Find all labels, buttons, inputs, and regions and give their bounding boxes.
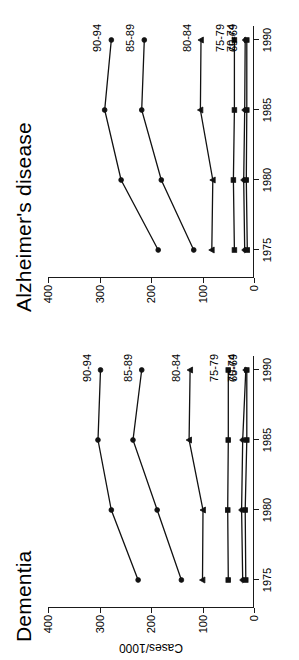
series-line (105, 40, 159, 250)
y-tick (203, 608, 204, 613)
x-tick (254, 439, 259, 440)
data-point (244, 178, 249, 183)
y-tick (48, 608, 49, 613)
y-tick-label: 300 (94, 615, 106, 633)
series-line (133, 370, 181, 580)
data-point (131, 438, 136, 443)
series-line (233, 40, 234, 250)
y-tick (151, 608, 152, 613)
series-label-75-79: 75-79 (208, 354, 220, 382)
data-point (225, 508, 230, 513)
series-line (200, 40, 212, 250)
y-tick-label: 100 (197, 285, 209, 303)
data-point (244, 368, 249, 373)
data-point (159, 178, 164, 183)
data-point (243, 508, 248, 513)
series-label-85-89: 85-89 (122, 354, 134, 382)
data-point (119, 178, 124, 183)
data-point (244, 438, 249, 443)
series-line (189, 370, 203, 580)
data-point (139, 368, 144, 373)
y-tick (254, 278, 255, 283)
y-tick-label: 400 (42, 615, 54, 633)
data-point (226, 438, 231, 443)
x-tick (254, 109, 259, 110)
x-tick-label: 1985 (261, 98, 273, 122)
series-lines (48, 356, 254, 608)
data-point (109, 38, 114, 43)
data-point (155, 508, 160, 513)
x-tick-label: 1980 (261, 498, 273, 522)
x-tick (254, 509, 259, 510)
data-point (244, 108, 249, 113)
y-tick (100, 278, 101, 283)
y-tick (254, 608, 255, 613)
plot-area-dementia: Cases/1000 01002003004001975198019851990… (48, 356, 254, 608)
panel-title-dementia: Dementia (12, 551, 36, 642)
series-label-80-84: 80-84 (170, 354, 182, 382)
figure-canvas: Dementia Cases/1000 01002003004001975198… (0, 0, 299, 660)
x-tick (254, 579, 259, 580)
data-point (243, 578, 248, 583)
y-tick-label: 300 (94, 285, 106, 303)
y-tick-label: 200 (145, 615, 157, 633)
x-tick-label: 1975 (261, 238, 273, 262)
series-line (246, 40, 247, 250)
x-tick (254, 249, 259, 250)
x-tick-label: 1990 (261, 358, 273, 382)
panel-alzheimer: Alzheimer's disease 01002003004001975198… (0, 0, 299, 330)
data-point (139, 108, 144, 113)
series-label-65-69: 65-69 (227, 24, 239, 52)
data-point (156, 248, 161, 253)
y-tick-label: 100 (197, 615, 209, 633)
x-tick (254, 39, 259, 40)
series-line (142, 40, 194, 250)
data-point (245, 248, 250, 253)
series-label-80-84: 80-84 (181, 24, 193, 52)
x-tick-label: 1975 (261, 568, 273, 592)
y-tick-label: 200 (145, 285, 157, 303)
series-lines (48, 26, 254, 278)
y-tick (48, 278, 49, 283)
data-point (136, 578, 141, 583)
x-tick-label: 1985 (261, 428, 273, 452)
series-line (244, 40, 246, 250)
data-point (232, 108, 237, 113)
x-tick (254, 179, 259, 180)
data-point (109, 508, 114, 513)
data-point (96, 438, 101, 443)
data-point (142, 38, 147, 43)
series-label-90-94: 90-94 (91, 24, 103, 52)
data-point (102, 108, 107, 113)
y-tick (203, 278, 204, 283)
x-tick-label: 1990 (261, 28, 273, 52)
series-line (98, 370, 138, 580)
x-tick-label: 1980 (261, 168, 273, 192)
data-point (232, 248, 237, 253)
y-axis-title: Cases/1000 (119, 641, 183, 655)
data-point (179, 578, 184, 583)
series-label-90-94: 90-94 (81, 354, 93, 382)
data-point (244, 38, 249, 43)
series-label-85-89: 85-89 (124, 24, 136, 52)
y-tick (151, 278, 152, 283)
plot-area-alzheimer: 0100200300400197519801985199090-9485-898… (48, 26, 254, 278)
data-point (226, 578, 231, 583)
y-tick-label: 400 (42, 285, 54, 303)
series-line (228, 370, 229, 580)
panel-title-alzheimer: Alzheimer's disease (12, 122, 36, 312)
series-line (245, 370, 247, 580)
y-tick-label: 0 (248, 615, 260, 621)
y-tick-label: 0 (248, 285, 260, 291)
x-tick (254, 369, 259, 370)
y-tick (100, 608, 101, 613)
data-point (191, 248, 196, 253)
data-point (231, 178, 236, 183)
panel-dementia: Dementia Cases/1000 01002003004001975198… (0, 330, 299, 660)
data-point (98, 368, 103, 373)
series-label-65-69: 65-69 (227, 354, 239, 382)
